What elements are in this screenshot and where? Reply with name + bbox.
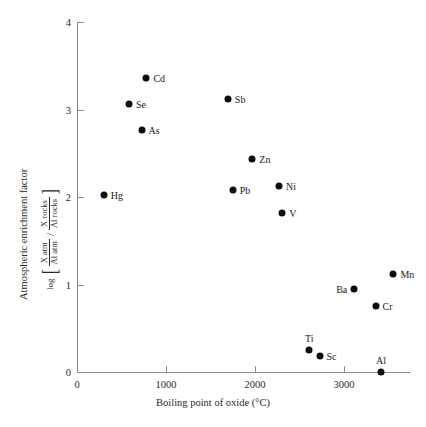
x-tick-label-1000: 1000	[156, 379, 177, 390]
data-point-label-ti: Ti	[305, 333, 314, 344]
data-point-label-pb: Pb	[240, 185, 251, 196]
x-tick-1000	[166, 366, 167, 372]
data-point-mn	[390, 271, 397, 278]
formula-log-text: log	[45, 277, 55, 290]
formula-divider: /	[44, 232, 56, 237]
data-point-as	[138, 126, 145, 133]
x-axis-title: Boiling point of oxide (°C)	[0, 397, 426, 408]
data-point-sc	[316, 353, 323, 360]
data-point-label-v: V	[289, 207, 296, 218]
data-point-zn	[249, 156, 256, 163]
y-tick-3	[78, 110, 84, 111]
data-point-label-as: As	[149, 124, 160, 135]
y-tick-label-4: 4	[57, 17, 71, 28]
data-point-al	[377, 369, 384, 376]
data-point-cd	[143, 75, 150, 82]
data-point-label-cr: Cr	[383, 301, 393, 312]
y-axis-formula: log [ X atm Al atm / X rocks Al rocks ]	[40, 188, 59, 290]
data-point-v	[279, 209, 286, 216]
data-point-hg	[100, 192, 107, 199]
data-point-label-ba: Ba	[336, 283, 347, 294]
data-point-cr	[372, 303, 379, 310]
formula-num-bottom: Al atm	[49, 239, 59, 266]
data-point-label-hg: Hg	[111, 190, 123, 201]
formula-numerator-fraction: X atm Al atm	[40, 239, 59, 266]
x-tick-2000	[255, 366, 256, 372]
formula-bracket-right: ]	[42, 189, 57, 194]
data-point-ni	[276, 182, 283, 189]
x-axis-line	[77, 372, 410, 373]
data-point-ti	[306, 347, 313, 354]
y-tick-label-1: 1	[57, 279, 71, 290]
data-point-label-al: Al	[376, 355, 386, 366]
formula-num-top: X atm	[40, 240, 49, 265]
data-point-pb	[229, 187, 236, 194]
x-tick-0	[77, 366, 78, 372]
formula-bracket-left: [	[42, 269, 57, 274]
data-point-label-mn: Mn	[400, 269, 414, 280]
x-tick-label-0: 0	[74, 379, 79, 390]
y-tick-2	[78, 197, 84, 198]
data-point-label-sc: Sc	[327, 351, 337, 362]
x-tick-label-2000: 2000	[245, 379, 266, 390]
x-tick-label-3000: 3000	[334, 379, 355, 390]
y-tick-label-3: 3	[57, 104, 71, 115]
y-axis-title-text: Atmospheric enrichment factor	[18, 169, 29, 300]
data-point-sb	[224, 96, 231, 103]
x-tick-3000	[344, 366, 345, 372]
scatter-chart-figure: 0100020003000 01234 CdSeAsHgSbZnPbNiVMnB…	[0, 0, 426, 427]
data-point-label-sb: Sb	[235, 94, 246, 105]
data-point-label-ni: Ni	[286, 180, 296, 191]
formula-den-top: X rocks	[40, 198, 49, 229]
y-tick-1	[78, 285, 84, 286]
data-point-label-cd: Cd	[153, 73, 165, 84]
data-point-label-se: Se	[136, 99, 146, 110]
y-axis-title-group: Atmospheric enrichment factor log [ X at…	[0, 0, 426, 427]
data-point-se	[126, 101, 133, 108]
y-tick-label-0: 0	[57, 367, 71, 378]
y-tick-label-2: 2	[57, 192, 71, 203]
data-point-ba	[351, 285, 358, 292]
y-tick-4	[78, 22, 84, 23]
data-point-label-zn: Zn	[259, 154, 270, 165]
